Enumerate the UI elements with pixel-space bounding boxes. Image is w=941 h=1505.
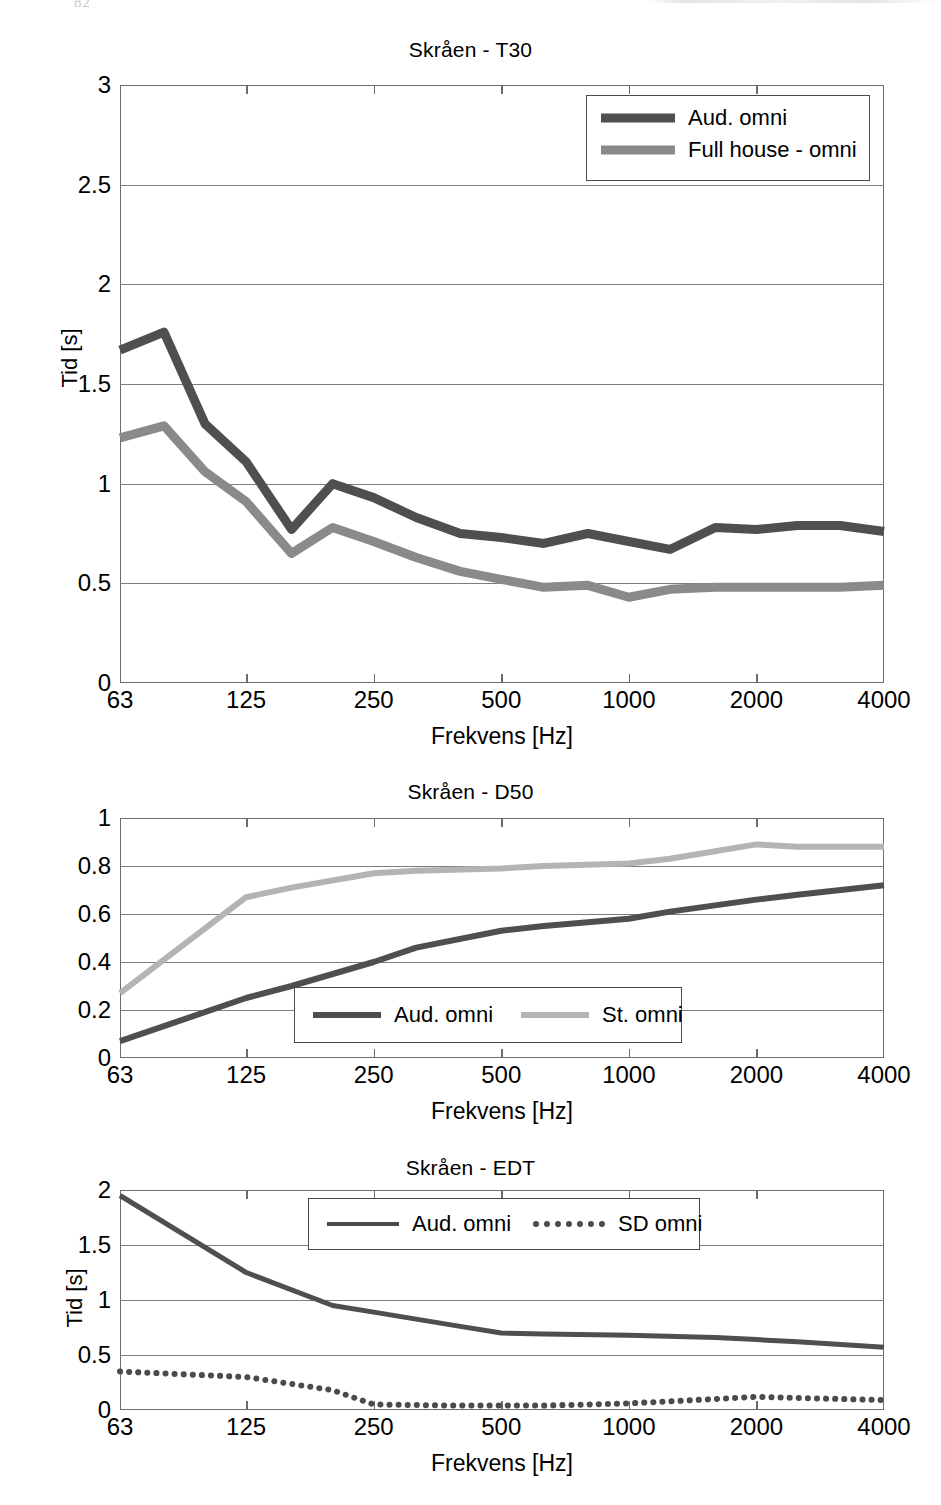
x-tick-label: 2000 xyxy=(730,1415,783,1439)
y-axis-title-edt: Tid [s] xyxy=(62,1238,88,1358)
x-tick-label: 2000 xyxy=(730,1063,783,1087)
chart-title-t30: Skråen - T30 xyxy=(0,38,941,62)
y-tick-label: 0.6 xyxy=(78,902,111,926)
legend-t30[interactable]: Aud. omni Full house - omni xyxy=(586,95,870,181)
x-tick-label: 500 xyxy=(481,688,521,712)
legend-swatch-aud-omni xyxy=(601,109,675,127)
legend-swatch-aud-omni xyxy=(327,1215,399,1233)
x-axis-title-t30: Frekvens [Hz] xyxy=(120,723,884,750)
series-line xyxy=(120,332,884,549)
legend-d50[interactable]: Aud. omni St. omni xyxy=(294,987,682,1043)
y-tick-label: 1 xyxy=(98,1288,111,1312)
y-axis-title-t30: Tid [s] xyxy=(57,298,83,418)
x-tick-label: 250 xyxy=(354,1415,394,1439)
x-tick-label: 1000 xyxy=(602,1415,655,1439)
x-axis-title-d50: Frekvens [Hz] xyxy=(120,1098,884,1125)
x-tick-label: 4000 xyxy=(857,688,910,712)
y-tick-label: 3 xyxy=(98,73,111,97)
legend-label-aud-omni: Aud. omni xyxy=(412,1213,511,1235)
chart-title-d50: Skråen - D50 xyxy=(0,780,941,804)
chart-title-edt: Skråen - EDT xyxy=(0,1156,941,1180)
x-tick-label: 1000 xyxy=(602,688,655,712)
legend-swatch-st-omni xyxy=(521,1006,589,1024)
figure-edt: Skråen - EDT 00.511.52631252505001000200… xyxy=(0,1140,941,1505)
x-axis-title-edt: Frekvens [Hz] xyxy=(120,1450,884,1477)
x-tick-label: 63 xyxy=(107,1063,134,1087)
y-tick-label: 2 xyxy=(98,1178,111,1202)
legend-label-sd-omni: SD omni xyxy=(618,1213,702,1235)
x-tick-label: 4000 xyxy=(857,1063,910,1087)
y-tick-label: 0.2 xyxy=(78,998,111,1022)
y-tick-label: 2 xyxy=(98,272,111,296)
legend-label-aud-omni: Aud. omni xyxy=(688,107,787,129)
x-tick-label: 250 xyxy=(354,1063,394,1087)
series-line xyxy=(120,1372,884,1406)
x-tick-label: 250 xyxy=(354,688,394,712)
y-tick-label: 1 xyxy=(98,806,111,830)
legend-entry-sd-omni[interactable]: SD omni xyxy=(533,1213,702,1235)
y-tick-label: 0.4 xyxy=(78,950,111,974)
x-tick-label: 63 xyxy=(107,688,134,712)
plot-area-edt: 00.511.5263125250500100020004000 Tid [s]… xyxy=(120,1190,884,1410)
legend-swatch-aud-omni xyxy=(313,1006,381,1024)
plot-area-t30: 00.511.522.5363125250500100020004000 Tid… xyxy=(120,85,884,683)
x-tick-label: 4000 xyxy=(857,1415,910,1439)
y-tick-label: 0.5 xyxy=(78,571,111,595)
x-tick-label: 500 xyxy=(481,1063,521,1087)
figure-d50: Skråen - D50 00.20.40.60.816312525050010… xyxy=(0,760,941,1140)
x-tick-label: 2000 xyxy=(730,688,783,712)
x-tick-label: 500 xyxy=(481,1415,521,1439)
legend-entry-aud-omni[interactable]: Aud. omni xyxy=(601,107,869,129)
legend-label-aud-omni: Aud. omni xyxy=(394,1004,493,1026)
plot-area-d50: 00.20.40.60.8163125250500100020004000 Fr… xyxy=(120,818,884,1058)
x-tick-label: 125 xyxy=(226,1415,266,1439)
figure-t30: Skråen - T30 00.511.522.5363125250500100… xyxy=(0,0,941,760)
legend-swatch-sd-omni xyxy=(533,1215,605,1233)
x-tick-label: 125 xyxy=(226,1063,266,1087)
legend-edt[interactable]: Aud. omni SD omni xyxy=(308,1198,700,1250)
legend-entry-aud-omni[interactable]: Aud. omni xyxy=(327,1213,511,1235)
series-line xyxy=(120,844,884,993)
legend-entry-aud-omni[interactable]: Aud. omni xyxy=(313,1004,493,1026)
x-tick-label: 63 xyxy=(107,1415,134,1439)
y-tick-label: 2.5 xyxy=(78,173,111,197)
legend-entry-full-house-omni[interactable]: Full house - omni xyxy=(601,139,869,161)
legend-entry-st-omni[interactable]: St. omni xyxy=(521,1004,683,1026)
y-tick-label: 1 xyxy=(98,472,111,496)
legend-swatch-full-house-omni xyxy=(601,141,675,159)
y-tick-label: 0.8 xyxy=(78,854,111,878)
legend-label-st-omni: St. omni xyxy=(602,1004,683,1026)
x-tick-label: 125 xyxy=(226,688,266,712)
x-tick-label: 1000 xyxy=(602,1063,655,1087)
legend-label-full-house-omni: Full house - omni xyxy=(688,139,857,161)
